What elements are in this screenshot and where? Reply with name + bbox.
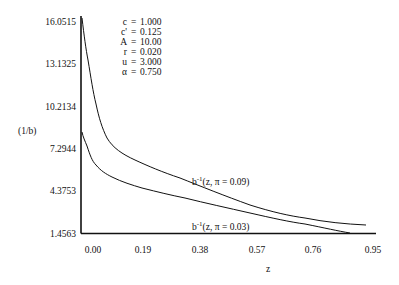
x-tick-label: 0.57	[249, 245, 266, 255]
x-axis-label: z	[266, 264, 270, 274]
param-eq: =	[131, 67, 136, 77]
y-tick-label: 13.1325	[45, 59, 76, 69]
y-tick-label: 10.2134	[45, 102, 76, 112]
param-eq: =	[131, 47, 136, 57]
y-tick-label: 1.4563	[50, 229, 76, 239]
param-name: c'	[121, 27, 127, 37]
parameters-annotation: c = 1.000 c' = 0.125 A = 10.00 r = 0.020…	[120, 17, 162, 77]
param-eq: =	[131, 27, 136, 37]
param-value: 0.750	[140, 67, 162, 77]
param-value: 0.020	[140, 47, 162, 57]
x-tick-label: 0.95	[365, 245, 382, 255]
param-name: α	[122, 67, 127, 77]
param-eq: =	[131, 17, 136, 27]
x-tick-labels: 0.00 0.19 0.38 0.57 0.76 0.95	[85, 245, 382, 255]
param-value: 10.00	[140, 37, 162, 47]
y-tick-labels: 16.0515 13.1325 10.2134 7.2944 4.3753 1.…	[45, 17, 76, 239]
x-tick-label: 0.76	[305, 245, 322, 255]
param-name: c	[123, 17, 127, 27]
y-tick-label: 7.2944	[50, 144, 76, 154]
y-tick-label: 16.0515	[45, 17, 76, 27]
param-value: 3.000	[140, 57, 162, 67]
x-tick-label: 0.19	[135, 245, 152, 255]
param-name: u	[122, 57, 127, 67]
param-name: r	[124, 47, 128, 57]
y-axis-label: (1/b)	[18, 126, 36, 137]
param-value: 1.000	[140, 17, 162, 27]
y-tick-label: 4.3753	[50, 186, 76, 196]
param-eq: =	[131, 57, 136, 67]
param-name: A	[120, 37, 127, 47]
curve-label-pi-0.03: b-1(z, π = 0.03)	[192, 220, 249, 233]
param-eq: =	[131, 37, 136, 47]
x-tick-label: 0.00	[85, 245, 102, 255]
chart: 16.0515 13.1325 10.2134 7.2944 4.3753 1.…	[0, 0, 399, 285]
param-value: 0.125	[140, 27, 162, 37]
x-tick-label: 0.38	[192, 245, 209, 255]
